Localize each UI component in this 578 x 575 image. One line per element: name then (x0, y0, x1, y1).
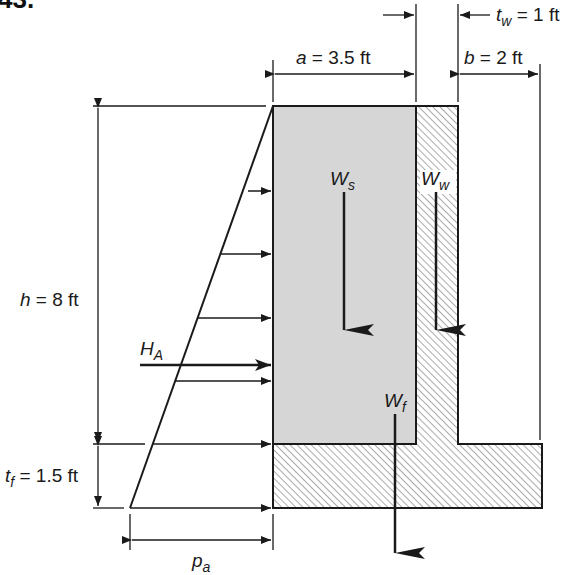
tf-dimension-label: tf = 1.5 ft (5, 465, 79, 490)
pressure-diagram-edge (130, 106, 273, 508)
retaining-wall-diagram: 43. HA Ws Ww Wf a = 3.5 (0, 0, 578, 575)
a-dimension-label: a = 3.5 ft (296, 47, 371, 68)
tw-dimension-label: tw = 1 ft (496, 4, 560, 29)
pa-label: pa (191, 550, 211, 575)
b-dimension-label: b = 2 ft (464, 47, 523, 68)
problem-number: 43. (0, 0, 34, 14)
h-dimension-label: h = 8 ft (20, 289, 79, 310)
ha-label: HA (140, 338, 163, 363)
